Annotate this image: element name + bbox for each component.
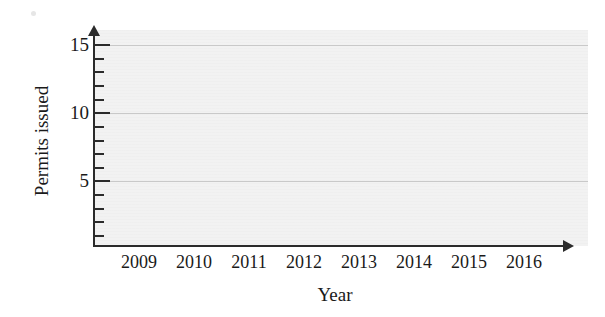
x-tick-label-2009: 2009: [109, 252, 169, 272]
y-tick-minor-1: [95, 235, 104, 237]
x-tick-label-2010: 2010: [164, 252, 224, 272]
y-tick-major-15: [95, 44, 110, 46]
y-tick-minor-13: [95, 71, 104, 73]
y-tick-label-15: 15: [57, 35, 89, 54]
gridline-15: [95, 45, 588, 46]
y-tick-minor-7: [95, 153, 104, 155]
y-tick-minor-14: [95, 58, 104, 60]
y-tick-minor-3: [95, 208, 104, 210]
y-tick-minor-9: [95, 126, 104, 128]
y-tick-major-10: [95, 112, 110, 114]
y-axis-title: Permits issued: [31, 51, 53, 231]
gridline-5: [95, 181, 588, 182]
x-tick-label-2013: 2013: [329, 252, 389, 272]
y-tick-label-10: 10: [57, 103, 89, 122]
y-tick-minor-8: [95, 140, 104, 142]
y-tick-minor-4: [95, 194, 104, 196]
x-axis-title: Year: [275, 284, 395, 306]
scan-speck-artifact: [31, 11, 36, 16]
y-tick-label-5: 5: [57, 171, 89, 190]
y-tick-minor-2: [95, 221, 104, 223]
y-tick-minor-12: [95, 85, 104, 87]
y-tick-major-5: [95, 180, 110, 182]
chart-figure: 15 10 5 2009 2010 2011 2012 2013 2014 20…: [0, 0, 605, 317]
y-tick-minor-11: [95, 99, 104, 101]
x-tick-label-2015: 2015: [439, 252, 499, 272]
x-tick-label-2014: 2014: [384, 252, 444, 272]
x-axis-line: [93, 245, 565, 247]
x-axis-arrow-icon: [563, 240, 574, 252]
x-tick-label-2016: 2016: [494, 252, 554, 272]
y-axis-arrow-icon: [88, 25, 100, 36]
x-tick-label-2011: 2011: [219, 252, 279, 272]
gridline-10: [95, 113, 588, 114]
x-tick-label-2012: 2012: [274, 252, 334, 272]
plot-area-background: [95, 30, 588, 246]
y-tick-minor-6: [95, 167, 104, 169]
